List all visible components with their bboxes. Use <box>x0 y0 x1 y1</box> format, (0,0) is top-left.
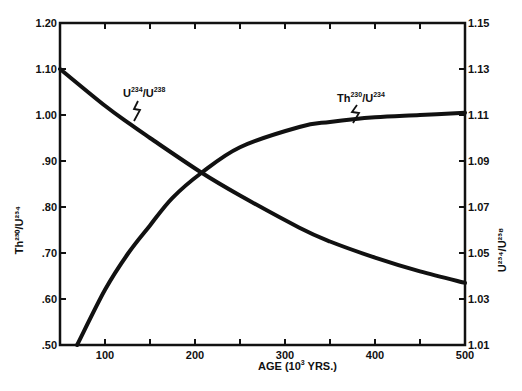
y-left-tick-label: 1.20 <box>36 17 57 29</box>
u234-u238-curve <box>60 69 465 283</box>
y-right-tick-label: 1.09 <box>468 155 489 167</box>
data-curves <box>60 69 465 345</box>
y-right-tick-label: 1.07 <box>468 201 489 213</box>
plot-border <box>60 23 465 345</box>
y-right-tick-label: 1.03 <box>468 293 489 305</box>
y-left-tick-label: .80 <box>42 201 57 213</box>
y-left-tick-label: 1.10 <box>36 63 57 75</box>
y-left-tick-label: .90 <box>42 155 57 167</box>
y-left-tick-label: .70 <box>42 247 57 259</box>
x-axis-title: AGE (103 YRS.) <box>258 359 337 372</box>
y-right-tick-label: 1.05 <box>468 247 489 259</box>
axis-labels: U234/U238Th230/U234AGE (103 YRS.)Th²³⁰/U… <box>13 86 508 372</box>
chart: 100200300400500.50.60.70.80.901.001.101.… <box>0 0 522 391</box>
u-label-pointer-icon <box>134 101 140 121</box>
y-left-tick-label: .60 <box>42 293 57 305</box>
y-left-tick-label: .50 <box>42 339 57 351</box>
y-left-axis-title: Th²³⁰/U²³⁴ <box>13 206 25 255</box>
u234-u238-curve-label: U234/U238 <box>123 86 165 99</box>
y-right-tick-label: 1.13 <box>468 63 489 75</box>
y-right-axis-title: U²³⁴/U²³⁸ <box>496 228 508 272</box>
y-right-tick-label: 1.15 <box>468 17 489 29</box>
axis-ticks: 100200300400500.50.60.70.80.901.001.101.… <box>36 17 490 361</box>
th230-u234-curve-label: Th230/U234 <box>337 91 385 104</box>
y-left-tick-label: 1.00 <box>36 109 57 121</box>
y-right-tick-label: 1.11 <box>468 109 489 121</box>
x-tick-label: 100 <box>96 349 114 361</box>
x-tick-label: 400 <box>366 349 384 361</box>
x-tick-label: 200 <box>186 349 204 361</box>
th230-u234-curve <box>77 113 465 345</box>
plot-frame <box>60 23 465 345</box>
y-right-tick-label: 1.01 <box>468 339 489 351</box>
